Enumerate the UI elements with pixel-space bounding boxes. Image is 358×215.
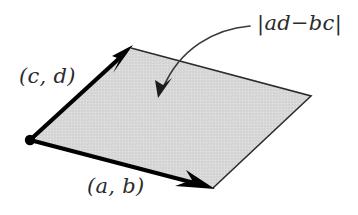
figure-canvas: (c, d) (a, b) |ad−bc| bbox=[0, 0, 358, 215]
vector-ab-label: (a, b) bbox=[87, 176, 145, 197]
vector-cd-label: (c, d) bbox=[19, 66, 76, 87]
area-determinant-label: |ad−bc| bbox=[257, 13, 342, 34]
origin-point-dot bbox=[25, 135, 35, 145]
